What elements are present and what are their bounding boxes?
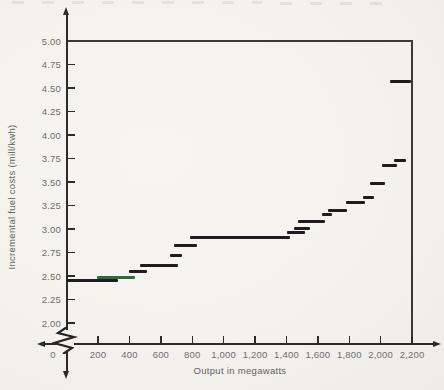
y-tick-label: 2.50	[32, 271, 61, 282]
incremental-cost-step-segment	[322, 213, 332, 216]
y-axis-title: Incremental fuel costs (mill/kwh)	[6, 47, 20, 347]
y-tick-label: 3.00	[32, 224, 61, 235]
incremental-cost-step-segment	[370, 182, 385, 185]
y-tick-label: 5.00	[32, 36, 61, 47]
x-axis-line-left	[44, 343, 57, 345]
x-tick-mark	[411, 336, 413, 344]
incremental-cost-step-segment	[390, 80, 411, 83]
y-tick-mark	[67, 64, 75, 66]
x-tick-mark	[286, 336, 288, 344]
incremental-cost-step-segment	[287, 231, 305, 234]
x-tick-mark	[223, 336, 225, 344]
y-tick-label: 3.75	[32, 153, 61, 164]
x-tick-mark	[254, 336, 256, 344]
incremental-cost-step-segment	[298, 220, 325, 223]
cropped-scan-text-artifact	[12, 1, 262, 4]
y-tick-mark	[67, 228, 75, 230]
x-tick-label: 2,200	[392, 349, 432, 360]
y-tick-mark	[67, 275, 75, 277]
incremental-cost-step-segment	[129, 270, 147, 273]
y-tick-label: 4.00	[32, 130, 61, 141]
y-axis-line	[66, 14, 68, 330]
y-tick-mark	[67, 322, 75, 324]
y-tick-label: 2.25	[32, 294, 61, 305]
incremental-cost-step-segment	[140, 264, 178, 267]
incremental-cost-step-segment	[328, 209, 347, 212]
incremental-cost-step-segment	[97, 276, 135, 278]
x-tick-mark	[129, 336, 131, 344]
y-tick-label: 4.50	[32, 83, 61, 94]
y-tick-mark	[67, 134, 75, 136]
incremental-cost-step-segment	[394, 159, 406, 162]
y-tick-mark	[67, 111, 75, 113]
plot-top-border	[66, 40, 412, 42]
y-tick-mark	[67, 205, 75, 207]
x-axis-right-arrowhead	[433, 341, 441, 347]
y-axis-up-arrowhead	[63, 7, 69, 15]
x-tick-mark	[317, 336, 319, 344]
incremental-cost-step-segment	[294, 227, 310, 230]
incremental-cost-step-segment	[346, 201, 365, 204]
y-tick-label: 4.25	[32, 106, 61, 117]
x-tick-label: 0	[33, 349, 73, 360]
y-tick-mark	[67, 252, 75, 254]
incremental-cost-step-segment	[363, 196, 374, 199]
y-tick-label: 3.25	[32, 200, 61, 211]
plot-right-border	[411, 40, 413, 345]
x-tick-mark	[192, 336, 194, 344]
y-tick-mark	[67, 299, 75, 301]
y-tick-label: 2.75	[32, 247, 61, 258]
x-axis-title: Output in megawatts	[140, 365, 340, 376]
y-tick-label: 3.50	[32, 177, 61, 188]
incremental-cost-step-segment	[170, 254, 182, 257]
incremental-cost-step-segment	[174, 244, 197, 247]
y-tick-mark	[67, 158, 75, 160]
y-tick-mark	[67, 87, 75, 89]
x-tick-mark	[97, 336, 99, 344]
y-tick-mark	[67, 181, 75, 183]
scanned-chart-page: Incremental fuel costs (mill/kwh) Output…	[0, 0, 444, 390]
y-axis-down-arrowhead	[63, 371, 69, 379]
incremental-cost-step-segment	[67, 279, 118, 282]
cropped-scan-text-artifact	[280, 2, 400, 5]
y-tick-label: 4.75	[32, 59, 61, 70]
incremental-cost-step-segment	[190, 236, 290, 239]
y-tick-label: 2.00	[32, 318, 61, 329]
x-axis-left-arrowhead	[37, 341, 45, 347]
x-tick-mark	[349, 336, 351, 344]
x-tick-mark	[380, 336, 382, 344]
x-tick-mark	[160, 336, 162, 344]
incremental-cost-step-segment	[382, 164, 397, 167]
